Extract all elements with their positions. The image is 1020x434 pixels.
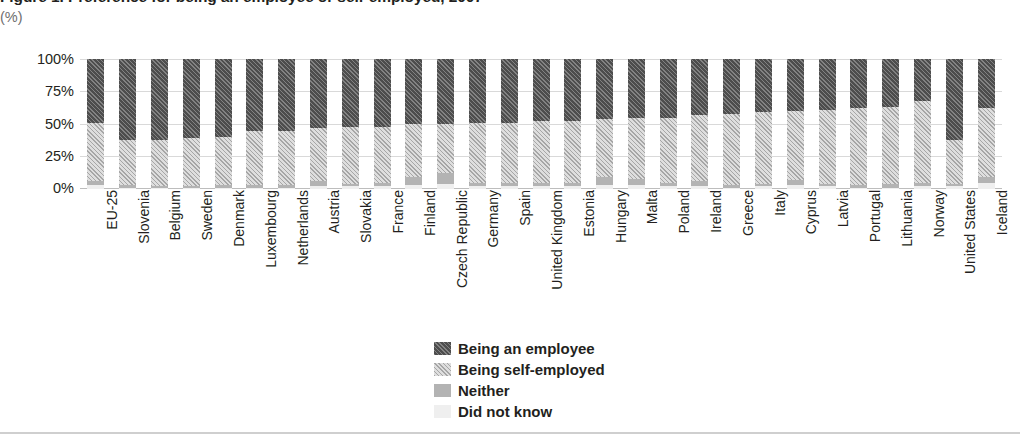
bar-segment	[342, 127, 359, 184]
bar-segment	[850, 188, 867, 189]
legend-item[interactable]: Neither	[434, 380, 734, 401]
x-tick-label: United Kingdom	[549, 190, 566, 330]
y-axis-tick-labels: 100%75%50%25%0%	[0, 59, 74, 189]
bar-segment	[660, 183, 677, 187]
x-tick-label: EU-25	[104, 190, 121, 330]
bar-segment	[469, 123, 486, 183]
bar-segment	[564, 186, 581, 189]
bar-segment	[342, 184, 359, 187]
bar-netherlands[interactable]	[278, 59, 295, 189]
legend-item[interactable]: Did not know	[434, 401, 734, 422]
bar-segment	[183, 138, 200, 186]
legend-label: Being an employee	[458, 340, 595, 357]
bar-segment	[246, 188, 263, 189]
bar-segment	[87, 123, 104, 182]
bar-malta[interactable]	[628, 59, 645, 189]
bar-segment	[183, 59, 200, 138]
bar-segment	[437, 173, 454, 183]
bar-finland[interactable]	[405, 59, 422, 189]
bar-segment	[628, 118, 645, 179]
bar-poland[interactable]	[660, 59, 677, 189]
x-tick-label: Norway	[931, 190, 948, 330]
bar-belgium[interactable]	[151, 59, 168, 189]
bar-lithuania[interactable]	[882, 59, 899, 189]
bar-estonia[interactable]	[564, 59, 581, 189]
bar-segment	[437, 59, 454, 124]
x-tick-label: Czech Republic	[454, 190, 471, 330]
bar-segment	[723, 188, 740, 189]
bar-segment	[374, 183, 391, 187]
legend-item[interactable]: Being an employee	[434, 338, 734, 359]
bar-segment	[119, 185, 136, 188]
bar-segment	[310, 181, 327, 186]
bar-united-kingdom[interactable]	[533, 59, 550, 189]
bar-segment	[755, 184, 772, 187]
bar-cyprus[interactable]	[787, 59, 804, 189]
bar-greece[interactable]	[723, 59, 740, 189]
bar-segment	[596, 185, 613, 189]
bar-segment	[533, 183, 550, 187]
bar-segment	[691, 59, 708, 115]
bar-austria[interactable]	[310, 59, 327, 189]
legend-item[interactable]: Being self-employed	[434, 359, 734, 380]
bar-segment	[437, 124, 454, 173]
bar-italy[interactable]	[755, 59, 772, 189]
bar-ireland[interactable]	[691, 59, 708, 189]
y-tick-label: 100%	[2, 52, 74, 66]
bar-luxembourg[interactable]	[246, 59, 263, 189]
bar-segment	[87, 59, 104, 123]
bar-segment	[882, 188, 899, 189]
bar-spain[interactable]	[501, 59, 518, 189]
bar-segment	[215, 188, 232, 189]
bar-sweden[interactable]	[183, 59, 200, 189]
bar-slovakia[interactable]	[342, 59, 359, 189]
bar-segment	[215, 59, 232, 137]
bar-czech-republic[interactable]	[437, 59, 454, 189]
bar-segment	[596, 59, 613, 119]
x-tick-label: Germany	[485, 190, 502, 330]
y-tick-label: 75%	[2, 84, 74, 98]
bar-segment	[564, 183, 581, 187]
bar-segment	[151, 140, 168, 187]
bar-segment	[723, 185, 740, 188]
x-tick-label: Iceland	[994, 190, 1011, 330]
bar-segment	[882, 107, 899, 184]
bar-segment	[787, 180, 804, 185]
bar-segment	[342, 59, 359, 127]
x-tick-label: Netherlands	[295, 190, 312, 330]
bar-segment	[914, 101, 931, 183]
legend-swatch-icon	[434, 342, 451, 355]
bar-segment	[278, 59, 295, 131]
bar-eu-25[interactable]	[87, 59, 104, 189]
x-tick-label: Austria	[326, 190, 343, 330]
bar-segment	[978, 108, 995, 177]
bar-denmark[interactable]	[215, 59, 232, 189]
x-tick-label: Poland	[676, 190, 693, 330]
bar-portugal[interactable]	[850, 59, 867, 189]
page-title: Figure 1. Preference for being an employ…	[0, 0, 1020, 7]
bar-segment	[660, 186, 677, 189]
y-axis-unit-label: (%)	[0, 8, 23, 26]
bar-segment	[787, 59, 804, 111]
bar-iceland[interactable]	[978, 59, 995, 189]
bar-norway[interactable]	[914, 59, 931, 189]
bar-slovenia[interactable]	[119, 59, 136, 189]
bar-segment	[215, 137, 232, 185]
bar-segment	[119, 188, 136, 189]
bar-france[interactable]	[374, 59, 391, 189]
y-tick-label: 25%	[2, 149, 74, 163]
bar-segment	[850, 59, 867, 108]
bar-germany[interactable]	[469, 59, 486, 189]
plot-area	[80, 59, 1002, 189]
bar-united-states[interactable]	[946, 59, 963, 189]
bar-segment	[246, 131, 263, 186]
bar-segment	[787, 185, 804, 189]
bar-segment	[501, 183, 518, 187]
bar-hungary[interactable]	[596, 59, 613, 189]
bar-segment	[628, 59, 645, 118]
bar-segment	[119, 59, 136, 140]
bar-segment	[787, 111, 804, 180]
bar-segment	[119, 140, 136, 186]
bar-latvia[interactable]	[819, 59, 836, 189]
x-tick-label: Ireland	[708, 190, 725, 330]
